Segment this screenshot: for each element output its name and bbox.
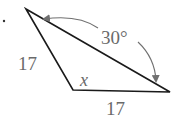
side-label-left: 17 bbox=[18, 53, 37, 74]
triangle-shape bbox=[26, 9, 170, 92]
side-label-bottom: 17 bbox=[106, 98, 125, 119]
angle-label-x: x bbox=[79, 70, 88, 90]
dot-mark bbox=[3, 20, 5, 22]
angle-label-30: 30° bbox=[101, 27, 128, 48]
triangle-diagram: 30° 17 x 17 bbox=[0, 0, 177, 124]
angle-arrow-top bbox=[44, 18, 98, 28]
